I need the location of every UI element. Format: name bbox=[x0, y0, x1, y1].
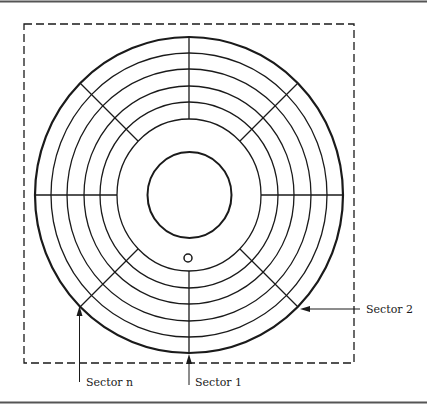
disk-diagram: Sector n Sector 1 Sector 2 bbox=[0, 0, 427, 406]
sector-2-arrowhead bbox=[300, 306, 310, 312]
sector-n-label: Sector n bbox=[86, 376, 133, 389]
sector-1-arrowhead bbox=[186, 354, 192, 364]
disk-platter bbox=[35, 37, 343, 353]
sector-boundaries bbox=[35, 37, 343, 353]
hub-circle bbox=[148, 152, 232, 238]
sector-2-label: Sector 2 bbox=[366, 303, 413, 316]
sector-1-label: Sector 1 bbox=[195, 376, 242, 389]
sector-line-bottom-right bbox=[240, 249, 298, 307]
sector-line-bottom-left bbox=[80, 249, 138, 307]
index-hole bbox=[184, 254, 192, 262]
track-1 bbox=[117, 119, 261, 271]
sector-line-top-left bbox=[80, 83, 138, 141]
sector-line-top-right bbox=[240, 83, 298, 141]
